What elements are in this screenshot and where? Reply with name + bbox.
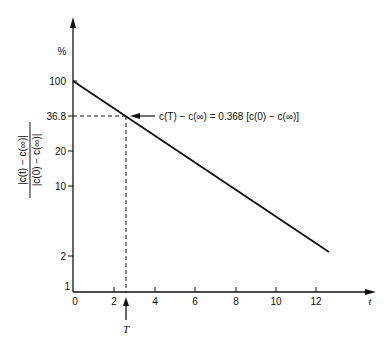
y-axis-label-numerator: |c(t) − c(∞)| xyxy=(17,135,28,185)
y-tick-20: 20 xyxy=(55,146,67,157)
y-unit-label: % xyxy=(58,46,67,57)
y-axis-label-denominator: |c(0) − c(∞)| xyxy=(31,134,42,187)
x-ticks xyxy=(114,287,316,292)
t-marker-arrow-icon xyxy=(123,297,129,306)
x-tick-6: 6 xyxy=(192,296,198,307)
t-marker-label: T xyxy=(123,323,130,335)
y-tick-1: 1 xyxy=(64,281,70,292)
x-tick-10: 10 xyxy=(270,296,282,307)
annotation-text: c(T) − c(∞) = 0.368 [c(0) − c(∞)] xyxy=(159,111,299,122)
y-tick-2: 2 xyxy=(60,251,66,262)
x-axis-label: t xyxy=(368,295,372,307)
x-tick-12: 12 xyxy=(310,296,322,307)
y-tick-36-8: 36.8 xyxy=(47,111,67,122)
y-axis-label: |c(t) − c(∞)| |c(0) − c(∞)| xyxy=(17,122,42,198)
chart: % 100 36.8 20 10 2 1 0 2 4 6 8 10 12 t c… xyxy=(0,0,390,340)
x-tick-4: 4 xyxy=(152,296,158,307)
x-tick-2: 2 xyxy=(111,296,117,307)
x-tick-0: 0 xyxy=(72,296,78,307)
y-tick-10: 10 xyxy=(55,181,67,192)
annotation-arrow-icon xyxy=(130,113,140,119)
y-axis-arrow-icon xyxy=(70,17,76,28)
data-line xyxy=(73,81,329,252)
y-tick-100: 100 xyxy=(49,76,66,87)
x-tick-8: 8 xyxy=(233,296,239,307)
